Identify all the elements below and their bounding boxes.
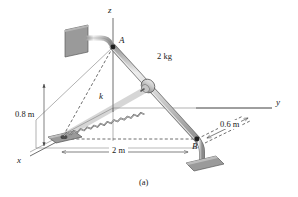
figure-container: z y x A B 2 kg k 0.8 m 2 m 0.6 m (a) <box>0 0 298 197</box>
axis-label-y: y <box>276 98 280 107</box>
figure-caption: (a) <box>139 178 148 187</box>
spring <box>64 91 144 136</box>
wall-mount-plate <box>65 25 88 57</box>
axis-label-z: z <box>108 6 112 15</box>
dimension-label-span: 2 m <box>109 146 128 155</box>
main-rod <box>113 47 197 139</box>
point-a-marker <box>111 45 116 50</box>
axis-label-x: x <box>17 156 21 165</box>
main-rod-highlight <box>111 48 195 140</box>
point-label-b: B <box>192 142 198 151</box>
construction-line-upper-left <box>36 47 113 120</box>
base-plate-b <box>186 156 224 171</box>
diagram-canvas <box>0 0 298 197</box>
wall-bracket-arm <box>86 38 111 44</box>
point-label-a: A <box>119 36 125 45</box>
mass-label: 2 kg <box>157 52 172 61</box>
dimension-label-offset: 0.6 m <box>218 120 241 129</box>
spring-constant-label: k <box>99 92 103 101</box>
dimension-label-height: 0.8 m <box>15 110 34 119</box>
